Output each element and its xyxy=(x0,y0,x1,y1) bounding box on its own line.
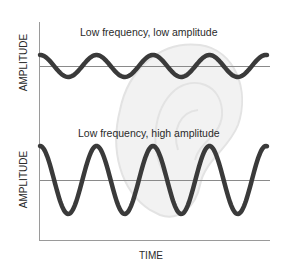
bottom-panel-title: Low frequency, high amplitude xyxy=(78,127,220,139)
x-axis-label: TIME xyxy=(139,250,163,261)
top-panel-title: Low frequency, low amplitude xyxy=(80,26,218,38)
bottom-y-axis-label: AMPLITUDE xyxy=(18,145,29,215)
top-y-axis-label: AMPLITUDE xyxy=(18,28,29,98)
